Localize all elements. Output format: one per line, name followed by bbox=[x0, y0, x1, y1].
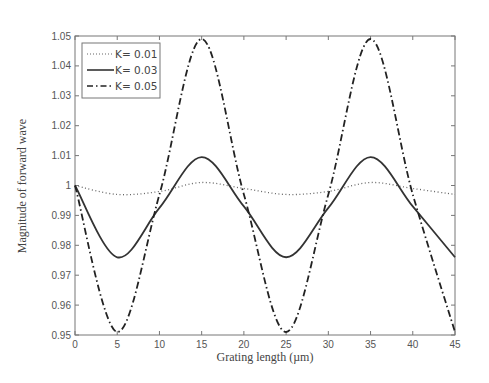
line-chart: 0.950.960.970.980.9911.011.021.031.041.0… bbox=[0, 0, 489, 383]
y-tick-label: 1.04 bbox=[52, 60, 72, 71]
y-tick-label: 0.98 bbox=[52, 240, 72, 251]
x-tick-label: 35 bbox=[365, 339, 377, 350]
legend-label: K= 0.05 bbox=[115, 80, 157, 92]
x-tick-label: 5 bbox=[114, 339, 120, 350]
x-tick-label: 40 bbox=[407, 339, 419, 350]
x-tick-label: 25 bbox=[281, 339, 293, 350]
x-axis-title: Grating length (µm) bbox=[217, 350, 314, 364]
y-tick-label: 1.02 bbox=[52, 120, 72, 131]
x-tick-label: 10 bbox=[154, 339, 166, 350]
x-tick-label: 30 bbox=[323, 339, 335, 350]
y-tick-label: 0.99 bbox=[52, 210, 72, 221]
y-tick-label: 0.96 bbox=[52, 300, 72, 311]
y-tick-label: 1.01 bbox=[52, 150, 72, 161]
legend: K= 0.01 K= 0.03 K= 0.05 bbox=[82, 43, 160, 98]
y-tick-label: 1 bbox=[65, 180, 71, 191]
y-tick-label: 1.03 bbox=[52, 90, 72, 101]
x-tick-label: 45 bbox=[449, 339, 461, 350]
legend-label: K= 0.03 bbox=[115, 64, 157, 76]
legend-label: K= 0.01 bbox=[115, 48, 157, 60]
y-tick-label: 1.05 bbox=[52, 31, 72, 42]
x-tick-label: 0 bbox=[72, 339, 78, 350]
x-tick-label: 20 bbox=[238, 339, 250, 350]
y-tick-label: 0.95 bbox=[52, 330, 72, 341]
x-tick-label: 15 bbox=[196, 339, 208, 350]
y-tick-label: 0.97 bbox=[52, 270, 72, 281]
y-axis-title: Magnitude of forward wave bbox=[15, 119, 29, 253]
